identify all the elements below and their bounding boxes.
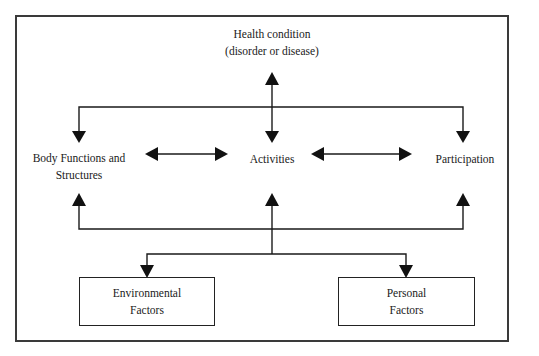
arrow-down-icon	[265, 131, 279, 143]
node-environmental-factors: Environmental Factors	[79, 277, 215, 326]
arrow-up-icon	[456, 193, 470, 206]
node-activities: Activities	[237, 151, 307, 168]
node-personal-factors: Personal Factors	[338, 277, 475, 326]
environmental-factors-line2: Factors	[130, 302, 164, 319]
body-functions-line1: Body Functions and	[18, 150, 140, 167]
node-participation: Participation	[425, 151, 505, 168]
arrow-down-icon	[72, 131, 86, 143]
health-condition-subtitle: (disorder or disease)	[212, 43, 332, 60]
arrow-right-icon	[399, 147, 412, 161]
arrow-right-icon	[215, 147, 228, 161]
arrow-down-icon	[456, 131, 470, 143]
node-body-functions: Body Functions and Structures	[18, 150, 140, 184]
body-functions-line2: Structures	[18, 167, 140, 184]
personal-factors-line2: Factors	[390, 302, 424, 319]
node-health-condition: Health condition (disorder or disease)	[212, 26, 332, 60]
arrow-left-icon	[145, 147, 158, 161]
arrow-up-icon	[265, 72, 279, 85]
personal-factors-line1: Personal	[387, 285, 427, 302]
arrow-left-icon	[311, 147, 324, 161]
environmental-factors-line1: Environmental	[113, 285, 181, 302]
health-condition-title: Health condition	[212, 26, 332, 43]
participation-label: Participation	[425, 151, 505, 168]
arrow-up-icon	[72, 193, 86, 206]
arrow-up-icon	[265, 193, 279, 206]
activities-label: Activities	[237, 151, 307, 168]
